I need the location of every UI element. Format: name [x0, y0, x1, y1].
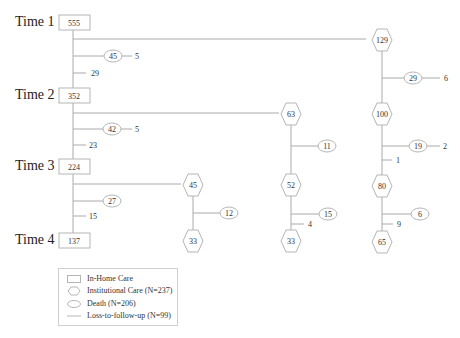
time-3-label: Time 3 [15, 158, 55, 174]
inst-col1-t2: 100 [376, 110, 388, 119]
home-loss-t2: 23 [89, 141, 97, 150]
time-1-label: Time 1 [15, 14, 55, 30]
in-home-count-t2: 352 [68, 92, 80, 101]
home-death-t1: 45 [109, 52, 117, 61]
legend-item-institutional: Institutional Care (N=237) [67, 286, 172, 296]
inst-col3-t4: 33 [189, 237, 197, 246]
inst-col1-loss-2: 1 [396, 156, 400, 165]
inst-col3-death-3: 12 [225, 209, 233, 218]
inst-col2-t4: 33 [287, 237, 295, 246]
inst-col2-t2: 63 [287, 110, 295, 119]
inst-col3-t3: 45 [189, 181, 197, 190]
inst-col1-t4: 65 [378, 238, 386, 247]
inst-col1-t3: 80 [378, 182, 386, 191]
legend-label-institutional: Institutional Care (N=237) [87, 286, 172, 295]
inst-col1-death-3: 6 [418, 210, 422, 219]
ellipse-icon [67, 300, 81, 308]
legend-label-death: Death (N=206) [87, 299, 136, 308]
home-loss-t3: 15 [89, 212, 97, 221]
legend-label-loss: Loss-to-follow-up (N=99) [87, 311, 171, 320]
home-death-loss-t2: 5 [135, 125, 139, 134]
time-2-label: Time 2 [15, 87, 55, 103]
line-icon [67, 314, 81, 318]
time-4-label: Time 4 [15, 232, 55, 248]
home-death-loss-t1: 5 [135, 52, 139, 61]
inst-col1-death-1-loss: 6 [444, 74, 448, 83]
home-death-t3: 27 [108, 197, 116, 206]
in-home-count-t4: 137 [68, 237, 80, 246]
home-death-t2: 42 [108, 125, 116, 134]
legend-label-in-home: In-Home Care [87, 274, 133, 283]
home-loss-t1: 29 [91, 69, 99, 78]
inst-col1-loss-3: 9 [397, 220, 401, 229]
inst-col2-t3: 52 [287, 181, 295, 190]
inst-col1-death-2: 19 [414, 142, 422, 151]
legend: In-Home Care Institutional Care (N=237) … [58, 268, 178, 326]
inst-col1-t1: 129 [376, 36, 388, 45]
in-home-count-t1: 555 [68, 19, 80, 28]
legend-item-death: Death (N=206) [67, 299, 136, 308]
inst-col2-death-3: 15 [324, 210, 332, 219]
rectangle-icon [67, 275, 81, 283]
inst-col2-death-2: 11 [323, 142, 331, 151]
inst-col1-death-2-loss: 2 [443, 142, 447, 151]
inst-col1-death-1: 29 [409, 74, 417, 83]
inst-col2-loss-3: 4 [308, 220, 312, 229]
legend-item-loss: Loss-to-follow-up (N=99) [67, 311, 171, 320]
legend-item-in-home: In-Home Care [67, 274, 133, 283]
in-home-count-t3: 224 [68, 163, 80, 172]
hexagon-icon [67, 286, 81, 296]
